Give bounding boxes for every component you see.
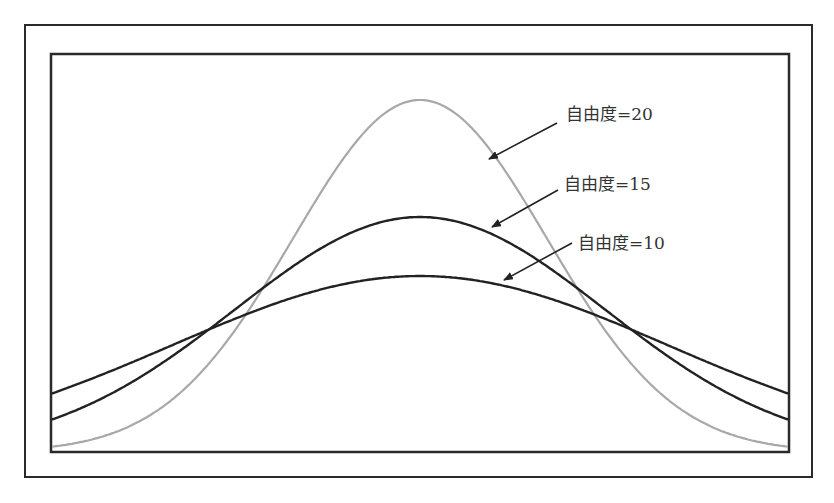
annotation-labels: 自由度=20 自由度=15 自由度=10 bbox=[564, 104, 665, 253]
curve-df10 bbox=[52, 276, 788, 394]
curve-df20 bbox=[52, 100, 788, 447]
arrow-df15 bbox=[492, 190, 558, 227]
arrow-df20 bbox=[489, 123, 557, 159]
curve-df15 bbox=[52, 217, 788, 420]
curves-group bbox=[52, 100, 788, 447]
plot-frame bbox=[51, 54, 789, 452]
label-df10: 自由度=10 bbox=[578, 233, 665, 253]
label-df20: 自由度=20 bbox=[566, 104, 653, 124]
label-df15: 自由度=15 bbox=[564, 174, 651, 194]
chart-area: 自由度=20 自由度=15 自由度=10 bbox=[0, 0, 834, 503]
